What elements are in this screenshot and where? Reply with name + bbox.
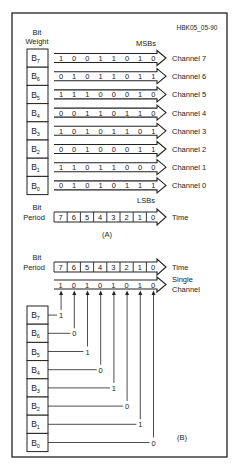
bit-value: 1 (99, 54, 103, 63)
channel-label: Channel 2 (172, 145, 206, 154)
channel-label: Channel 1 (172, 163, 206, 172)
bit-value: 1 (72, 72, 76, 81)
bit-value: 0 (85, 163, 89, 172)
channel-label: Channel 5 (172, 90, 206, 99)
bit-value: 1 (112, 54, 116, 63)
bit-value: 0 (72, 54, 76, 63)
channel-label: Channel 4 (172, 109, 206, 118)
period-value: 6 (72, 213, 76, 222)
bit-value: 1 (59, 90, 63, 99)
bit-value: 0 (151, 109, 155, 118)
bit-value: 0 (99, 145, 103, 154)
bit-value: 0 (85, 72, 89, 81)
weight-bit-value: 1 (59, 311, 63, 320)
period-value: 4 (98, 263, 102, 272)
bit-period-heading: Period (23, 263, 45, 272)
bit-value: 0 (72, 127, 76, 136)
bit-value: 1 (138, 54, 142, 63)
bit-value: 1 (59, 127, 63, 136)
time-label: Time (172, 263, 188, 272)
msbs-label: MSBs (136, 39, 156, 48)
bit-value: 0 (138, 127, 142, 136)
bit-value: 0 (125, 54, 129, 63)
period-value: 6 (72, 263, 76, 272)
bit-value: 1 (112, 163, 116, 172)
bit-value: 0 (59, 72, 63, 81)
bit-value: 1 (85, 90, 89, 99)
period-value: 3 (111, 263, 115, 272)
bit-value: 0 (138, 163, 142, 172)
period-value: 2 (125, 263, 129, 272)
lsbs-label: LSBs (137, 196, 155, 205)
bit-value: 0 (125, 90, 129, 99)
bit-value: 0 (72, 109, 76, 118)
bit-period-heading: Period (23, 213, 45, 222)
serial-bit-value: 1 (138, 281, 142, 290)
serial-parallel-diagram: HBK05_05-90 BitWeightB710011010Channel 7… (0, 0, 239, 470)
bit-value: 1 (72, 163, 76, 172)
weight-bit-value: 0 (99, 366, 103, 375)
bit-value: 0 (151, 54, 155, 63)
bit-value: 1 (138, 90, 142, 99)
panel-b-label: (B) (177, 433, 188, 442)
bit-value: 0 (112, 90, 116, 99)
single-channel-label: Single (172, 275, 193, 284)
period-value: 1 (138, 263, 142, 272)
period-value: 0 (151, 213, 155, 222)
period-value: 7 (59, 263, 63, 272)
bit-value: 1 (138, 181, 142, 190)
channel-label: Channel 7 (172, 54, 206, 63)
bit-value: 1 (99, 109, 103, 118)
bit-value: 0 (151, 90, 155, 99)
serial-bit-value: 0 (72, 281, 76, 290)
bit-value: 1 (99, 163, 103, 172)
weight-bit-value: 1 (138, 420, 142, 429)
bit-value: 1 (59, 54, 63, 63)
bit-value: 1 (72, 181, 76, 190)
bit-weight-heading: Bit (33, 28, 43, 37)
bit-value: 1 (125, 181, 129, 190)
bit-value: 0 (72, 145, 76, 154)
channel-label: Channel 3 (172, 127, 206, 136)
bit-value: 0 (125, 145, 129, 154)
bit-value: 1 (138, 145, 142, 154)
bit-value: 1 (85, 145, 89, 154)
bit-value: 1 (59, 163, 63, 172)
bit-value: 1 (99, 181, 103, 190)
bit-value: 0 (112, 109, 116, 118)
bit-value: 1 (151, 145, 155, 154)
bit-value: 1 (138, 109, 142, 118)
period-value: 7 (59, 213, 63, 222)
period-value: 4 (98, 213, 102, 222)
period-value: 5 (85, 263, 89, 272)
bit-value: 0 (85, 54, 89, 63)
bit-value: 1 (85, 109, 89, 118)
bit-weight-heading: Weight (25, 37, 49, 46)
serial-bit-value: 1 (59, 281, 63, 290)
bit-value: 1 (125, 127, 129, 136)
bit-value: 0 (112, 145, 116, 154)
channel-label: Channel 6 (172, 72, 206, 81)
period-value: 3 (111, 213, 115, 222)
bit-value: 0 (112, 181, 116, 190)
bit-value: 0 (151, 163, 155, 172)
figure-id: HBK05_05-90 (177, 24, 218, 32)
period-value: 0 (151, 263, 155, 272)
bit-value: 1 (151, 127, 155, 136)
serial-bit-value: 1 (85, 281, 89, 290)
bit-value: 0 (99, 90, 103, 99)
weight-bit-value: 0 (151, 439, 155, 448)
period-value: 1 (138, 213, 142, 222)
weight-bit-value: 0 (72, 329, 76, 338)
bit-value: 1 (112, 127, 116, 136)
bit-value: 0 (85, 181, 89, 190)
bit-value: 0 (59, 109, 63, 118)
serial-bit-value: 0 (98, 281, 102, 290)
period-value: 2 (125, 213, 129, 222)
bit-value: 1 (151, 72, 155, 81)
bit-value: 0 (125, 163, 129, 172)
bit-value: 0 (125, 72, 129, 81)
bit-period-heading: Bit (33, 253, 43, 262)
bit-value: 1 (125, 109, 129, 118)
weight-bit-value: 1 (85, 348, 89, 357)
